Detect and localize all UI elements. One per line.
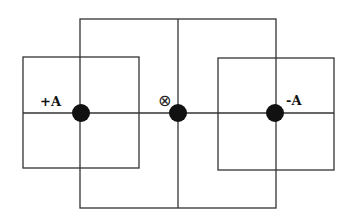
cross-circle-icon: ⊗ — [158, 91, 171, 110]
plus-a-label: +A — [40, 94, 62, 109]
right-node — [266, 104, 284, 122]
center-node — [169, 104, 187, 122]
left-node — [72, 104, 90, 122]
diagram-canvas: +A ⊗ -A — [0, 0, 350, 220]
minus-a-label: -A — [286, 93, 302, 108]
